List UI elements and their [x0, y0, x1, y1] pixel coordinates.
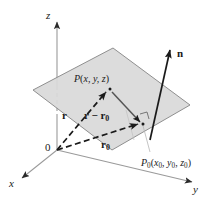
vector-plane-diagram: z x y 0 P(x, y, z) P0(x0, y0, z0) r r − …	[0, 0, 208, 205]
origin-label: 0	[45, 142, 51, 153]
x-axis-label: x	[9, 178, 14, 189]
point-P0-dot	[142, 123, 145, 126]
r-minus-r0-second-sub: 0	[105, 114, 109, 123]
r-minus-r0-operator: −	[89, 109, 101, 121]
vector-r-minus-r0-label: r − r0	[84, 110, 109, 123]
normal-vector-n-label: n	[177, 48, 183, 59]
x-axis	[22, 150, 57, 178]
point-P-paren-close: )	[106, 73, 109, 84]
point-P-label: P(x, y, z)	[74, 74, 109, 84]
r0-subscript: 0	[106, 143, 110, 152]
z-axis-label: z	[46, 10, 50, 21]
point-P-coords: x, y, z	[83, 73, 105, 84]
point-P-dot	[109, 88, 112, 91]
point-P0-label: P0(x0, y0, z0)	[141, 158, 191, 170]
x-axis-line	[22, 150, 57, 178]
point-P0-paren-close: )	[188, 157, 191, 168]
vector-r-label: r	[62, 110, 67, 121]
y-axis-label: y	[193, 184, 198, 195]
vector-r0-label: r0	[101, 139, 110, 152]
diagram-canvas	[0, 0, 208, 205]
